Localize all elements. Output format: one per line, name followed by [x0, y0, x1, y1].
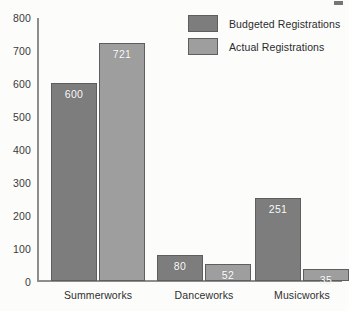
bar-summerworks-actual: 721	[99, 43, 145, 281]
bar-musicworks-budgeted: 251	[255, 198, 301, 281]
y-tick-200: 200	[13, 210, 31, 222]
bar-value-label: 721	[113, 49, 131, 60]
bar-value-label: 35	[320, 275, 332, 286]
y-tick-0: 0	[25, 276, 31, 288]
bar-danceworks-actual: 52	[205, 264, 251, 281]
y-tick-400: 400	[13, 144, 31, 156]
bar-value-label: 80	[174, 261, 186, 272]
bar-summerworks-budgeted: 600	[51, 83, 97, 281]
y-tick-800: 800	[13, 12, 31, 24]
bar-value-label: 251	[269, 204, 287, 215]
category-label-summerworks: Summerworks	[64, 289, 132, 301]
y-tick-600: 600	[13, 78, 31, 90]
y-tick-100: 100	[13, 243, 31, 255]
plot-area: 0100200300400500600700800 60072180522513…	[37, 18, 342, 282]
bar-danceworks-budgeted: 80	[157, 255, 203, 281]
y-tick-300: 300	[13, 177, 31, 189]
category-label-musicworks: Musicworks	[274, 289, 330, 301]
bar-musicworks-actual: 35	[303, 269, 349, 281]
scan-artifact	[334, 1, 343, 5]
bar-value-label: 600	[65, 89, 83, 100]
bar-value-label: 52	[222, 270, 234, 281]
y-axis-line	[37, 18, 39, 282]
category-label-danceworks: Danceworks	[175, 289, 234, 301]
y-tick-700: 700	[13, 45, 31, 57]
y-tick-500: 500	[13, 111, 31, 123]
